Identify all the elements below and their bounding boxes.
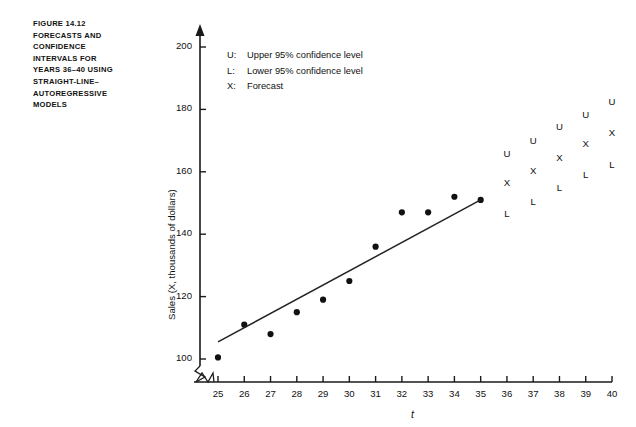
data-point [294,309,300,315]
lower-confidence-marker: L [553,182,565,193]
x-axis-tick-label: 27 [257,388,285,399]
plot-area [0,0,636,427]
y-axis-tick-label: 100 [158,352,192,363]
y-axis-label: Sales (X, thousands of dollars) [166,189,177,320]
x-axis-tick-label: 25 [204,388,232,399]
y-axis-tick-label: 200 [158,40,192,51]
upper-confidence-marker: U [606,96,618,107]
y-axis-break-icon [195,366,205,382]
upper-confidence-marker: U [580,109,592,120]
forecast-marker: X [527,165,539,176]
x-axis-tick-label: 30 [335,388,363,399]
plot-canvas [0,0,636,427]
lower-confidence-marker: L [527,196,539,207]
x-axis-tick-label: 40 [598,388,626,399]
lower-confidence-marker: L [501,208,513,219]
data-point [267,331,273,337]
x-axis-tick-label: 35 [467,388,495,399]
x-axis-tick-label: 33 [414,388,442,399]
x-axis-tick-label: 34 [440,388,468,399]
lower-confidence-marker: L [606,159,618,170]
trend-line [218,200,481,342]
data-point [373,244,379,250]
x-axis-tick-label: 26 [230,388,258,399]
x-axis-tick-label: 28 [283,388,311,399]
upper-confidence-marker: U [553,121,565,132]
x-axis-tick-label: 29 [309,388,337,399]
x-axis-tick-label: 31 [362,388,390,399]
y-axis-tick-label: 160 [158,165,192,176]
data-point [215,354,221,360]
x-axis-tick-label: 38 [545,388,573,399]
data-point [425,209,431,215]
lower-confidence-marker: L [580,169,592,180]
upper-confidence-marker: U [527,135,539,146]
upper-confidence-marker: U [501,148,513,159]
data-point [451,194,457,200]
forecast-marker: X [580,138,592,149]
x-axis-tick-label: 32 [388,388,416,399]
y-axis-arrow-icon [196,24,205,36]
x-axis-label: t [411,408,414,420]
data-point [320,297,326,303]
x-axis-tick-label: 39 [572,388,600,399]
forecast-marker: X [606,127,618,138]
x-axis-tick-label: 36 [493,388,521,399]
x-axis-tick-label: 37 [519,388,547,399]
forecast-marker: X [501,177,513,188]
data-point [399,209,405,215]
figure-container: FIGURE 14.12 FORECASTS AND CONFIDENCE IN… [0,0,636,427]
y-axis-tick-label: 180 [158,102,192,113]
forecast-marker: X [553,152,565,163]
data-point [346,278,352,284]
